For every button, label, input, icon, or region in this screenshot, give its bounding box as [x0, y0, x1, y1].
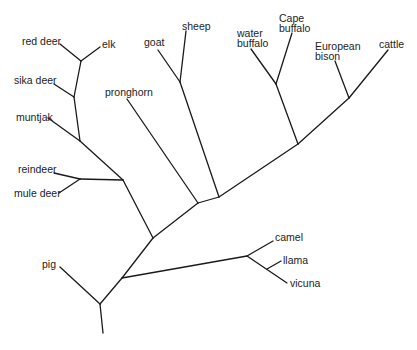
- label-sheep: sheep: [182, 20, 211, 32]
- label-pronghorn: pronghorn: [105, 86, 153, 98]
- branch-camelids: [122, 256, 247, 278]
- branch-red-deer: [60, 44, 81, 61]
- label-red-deer: red deer: [22, 35, 62, 47]
- branch-caprines: [180, 82, 219, 197]
- branch-bovid-core: [198, 197, 219, 203]
- branch-cervids: [123, 180, 153, 238]
- label-sika-deer: sika deer: [14, 74, 57, 86]
- label-cape-buffalo-line2: buffalo: [279, 22, 310, 34]
- branch-bovids: [153, 203, 198, 238]
- label-elk: elk: [102, 38, 116, 50]
- branch-mule-deer: [59, 179, 80, 193]
- root-branch: [100, 304, 103, 333]
- branch-water-buffalo: [251, 49, 276, 84]
- branch-redelk: [74, 61, 81, 97]
- label-vicuna: vicuna: [290, 277, 321, 289]
- branch-elk: [81, 47, 100, 61]
- branch-sika-deer: [54, 84, 74, 97]
- branch-pronghorn: [127, 99, 198, 203]
- branch-ruminant-camelid: [100, 278, 122, 304]
- branch-pig: [60, 267, 100, 304]
- branch-reindeer: [54, 173, 80, 179]
- label-pig: pig: [42, 258, 56, 270]
- phylogenetic-tree: red deer elk sika deer muntjak reindeer …: [0, 0, 417, 350]
- label-goat: goat: [144, 36, 165, 48]
- branch-cape-buffalo: [276, 33, 292, 84]
- branch-buffalo: [276, 84, 298, 144]
- label-mule-deer: mule deer: [14, 187, 61, 199]
- branch-sika-clade: [74, 97, 80, 141]
- label-reindeer: reindeer: [18, 163, 57, 175]
- branch-bison-cattle: [298, 98, 349, 144]
- label-muntjak: muntjak: [16, 111, 54, 123]
- label-llama: llama: [283, 254, 308, 266]
- label-european-bison-line2: bison: [315, 50, 340, 62]
- branch-llama: [267, 261, 281, 269]
- branch-camel: [247, 241, 273, 256]
- branch-reindeer-muledeer: [80, 179, 123, 180]
- branch-cattle: [349, 50, 388, 98]
- branch-ruminants: [122, 238, 153, 278]
- branch-bovines: [219, 144, 298, 197]
- label-cattle: cattle: [379, 38, 404, 50]
- tree-branches: [48, 31, 388, 333]
- branch-goat: [158, 50, 180, 82]
- label-camel: camel: [275, 231, 303, 243]
- branch-deer-upper: [80, 141, 123, 180]
- branch-european-bison: [335, 61, 349, 98]
- branch-sheep: [180, 31, 186, 82]
- branch-muntjak: [48, 118, 80, 141]
- label-water-buffalo-line2: buffalo: [237, 37, 268, 49]
